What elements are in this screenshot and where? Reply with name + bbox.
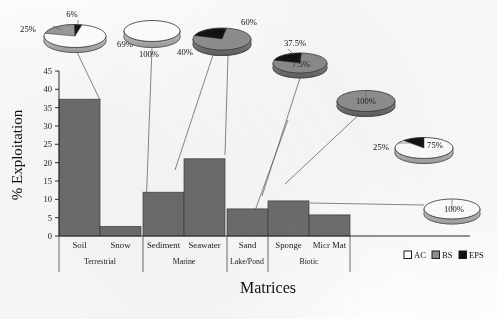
leader-line-sediment bbox=[175, 52, 214, 170]
legend-label-eps: EPS bbox=[469, 250, 484, 260]
bar-sponge bbox=[268, 201, 309, 236]
bar-micrmat bbox=[309, 215, 350, 236]
y-tick-5: 5 bbox=[48, 213, 52, 223]
leader-line-soil bbox=[75, 48, 100, 100]
x-cat-sand: Sand bbox=[239, 240, 257, 250]
legend-swatch-bs bbox=[432, 251, 440, 259]
bar-soil bbox=[59, 99, 100, 236]
figure-canvas: 45 40 35 30 25 20 15 10 5 0 % Exploitati… bbox=[0, 0, 497, 319]
leader-line-sand bbox=[262, 78, 300, 196]
bar-seawater bbox=[184, 159, 225, 236]
x-group-terrestrial: Terrestrial bbox=[84, 257, 117, 266]
bar-chart-with-pies: 45 40 35 30 25 20 15 10 5 0 % Exploitati… bbox=[0, 0, 497, 319]
y-axis-title: % Exploitation bbox=[9, 109, 25, 200]
x-cat-seawater: Seawater bbox=[188, 240, 220, 250]
pie-soil bbox=[44, 20, 106, 53]
pie-micrmat-label-ac: 100% bbox=[444, 204, 464, 214]
pie-sediment-label-eps: 40% bbox=[177, 47, 193, 57]
pie-snow bbox=[124, 21, 180, 48]
bars-group bbox=[59, 99, 350, 236]
pie-snow-slice-ac bbox=[124, 21, 180, 42]
legend-swatch-ac bbox=[404, 251, 412, 259]
y-tick-10: 10 bbox=[44, 194, 53, 204]
pie-sponge-label-ac: 75% bbox=[427, 140, 443, 150]
x-group-biotic: Biotic bbox=[299, 257, 319, 266]
pie-sediment-label-bs: 60% bbox=[241, 17, 257, 27]
bar-sand bbox=[227, 209, 268, 236]
leader-line-micrmat bbox=[310, 203, 424, 205]
x-cat-sediment: Sediment bbox=[147, 240, 181, 250]
pie-sponge-label-eps: 25% bbox=[373, 142, 389, 152]
bar-snow bbox=[100, 227, 141, 237]
legend: AC BS EPS bbox=[404, 250, 484, 260]
x-cat-soil: Soil bbox=[72, 240, 87, 250]
pie-snow-label-ac: 100% bbox=[139, 49, 159, 59]
pie-soil-label-eps: 6% bbox=[66, 9, 77, 19]
pie-sand-label-bs: 100% bbox=[356, 96, 376, 106]
legend-swatch-eps bbox=[459, 251, 467, 259]
leader-lines bbox=[75, 47, 424, 236]
bar-sediment bbox=[143, 192, 184, 236]
pie-soil-label-bs: 25% bbox=[20, 24, 36, 34]
y-tick-0: 0 bbox=[48, 231, 52, 241]
y-tick-35: 35 bbox=[44, 103, 53, 113]
y-axis-ticks bbox=[55, 71, 59, 236]
x-axis-title: Matrices bbox=[240, 279, 296, 296]
x-cat-micrmat: Micr Mat bbox=[313, 240, 347, 250]
pie-sponge bbox=[395, 138, 453, 164]
y-tick-45: 45 bbox=[44, 66, 53, 76]
pie-seawater-label-bs: 7.5% bbox=[292, 59, 310, 69]
y-tick-20: 20 bbox=[44, 158, 53, 168]
x-cat-sponge: Sponge bbox=[275, 240, 301, 250]
y-tick-40: 40 bbox=[44, 84, 53, 94]
leader-line-seawater bbox=[225, 55, 228, 155]
x-group-marine: Marine bbox=[173, 257, 196, 266]
y-tick-15: 15 bbox=[44, 176, 53, 186]
leader-line-sponge bbox=[285, 108, 366, 184]
legend-label-bs: BS bbox=[442, 250, 453, 260]
pie-seawater-label-eps: 37.5% bbox=[284, 38, 306, 48]
legend-label-ac: AC bbox=[414, 250, 426, 260]
x-group-lake-pond: Lake/Pond bbox=[230, 257, 264, 266]
y-tick-25: 25 bbox=[44, 139, 53, 149]
x-cat-snow: Snow bbox=[110, 240, 131, 250]
pie-sediment bbox=[193, 28, 251, 56]
y-tick-labels: 45 40 35 30 25 20 15 10 5 0 bbox=[44, 66, 53, 241]
y-tick-30: 30 bbox=[44, 121, 53, 131]
x-category-labels: Soil Snow Sediment Seawater Sand Sponge … bbox=[72, 240, 346, 250]
x-group-labels: Terrestrial Marine Lake/Pond Biotic bbox=[84, 257, 319, 266]
